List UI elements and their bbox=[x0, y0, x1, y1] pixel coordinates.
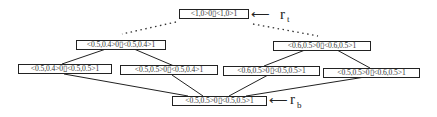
edge-mid-left-low-1 bbox=[62, 49, 106, 64]
node-bottom: <0.5,0.5>0▯<0.5,0.5>1 bbox=[172, 96, 267, 106]
node-low-4: <0.5,0.5>0▯<0.6,0.5>1 bbox=[323, 68, 420, 78]
edge-top-mid-left bbox=[122, 22, 176, 34]
top-label-subscript: t bbox=[287, 15, 290, 24]
edge-mid-right-low-4 bbox=[337, 50, 370, 68]
node-top: <1,0>0▯<1,0>1 bbox=[179, 9, 249, 19]
edge-top-mid-right bbox=[253, 24, 318, 36]
node-low-3: <0.6,0.5>0▯<0.5,0.5>1 bbox=[223, 66, 320, 76]
node-low-2: <0.5,0.5>0▯<0.5,0.4>1 bbox=[120, 65, 218, 75]
edge-low-1-bottom bbox=[64, 74, 188, 96]
edge-low-2-bottom bbox=[172, 75, 203, 96]
bottom-label-r: r bbox=[290, 92, 295, 107]
bottom-arrow-icon: ⟵ bbox=[269, 94, 288, 107]
edge-low-4-bottom bbox=[246, 77, 365, 96]
edge-low-3-bottom bbox=[229, 75, 268, 96]
node-mid-left: <0.5,0.4>0▯<0.5,0.4>1 bbox=[76, 40, 166, 50]
node-low-1: <0.5,0.4>0▯<0.5,0.5>1 bbox=[18, 64, 112, 74]
node-mid-right: <0.6,0.5>0▯<0.6,0.5>1 bbox=[273, 41, 371, 51]
edge-mid-right-low-3 bbox=[264, 50, 305, 66]
top-arrow-icon: ⟵ bbox=[251, 8, 270, 21]
edge-mid-left-low-2 bbox=[134, 49, 174, 66]
top-label-r: r bbox=[280, 7, 285, 22]
bottom-label-subscript: b bbox=[297, 101, 302, 110]
